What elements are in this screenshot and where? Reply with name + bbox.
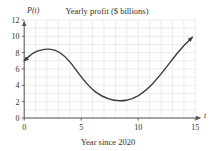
y-tick-label-0: 0 xyxy=(16,114,20,123)
y-tick-label-12: 12 xyxy=(12,16,20,25)
x-tick-label-10: 10 xyxy=(134,123,142,132)
chart-figure: Yearly profit ($ billions) P(t) t 0 2 4 … xyxy=(0,0,215,151)
x-tick-label-0: 0 xyxy=(22,123,26,132)
chart-svg: Yearly profit ($ billions) P(t) t 0 2 4 … xyxy=(0,0,215,151)
x-tick-label-5: 5 xyxy=(79,123,83,132)
chart-title: Yearly profit ($ billions) xyxy=(66,6,149,16)
x-tick-label-15: 15 xyxy=(191,123,199,132)
x-axis-caption: Year since 2020 xyxy=(81,137,135,147)
y-tick-label-2: 2 xyxy=(16,98,20,107)
y-tick-label-8: 8 xyxy=(16,49,20,58)
y-axis-label: P(t) xyxy=(26,6,40,15)
chart-background xyxy=(0,0,215,151)
y-tick-label-10: 10 xyxy=(12,32,20,41)
y-tick-label-4: 4 xyxy=(16,81,20,90)
y-tick-label-6: 6 xyxy=(16,65,20,74)
